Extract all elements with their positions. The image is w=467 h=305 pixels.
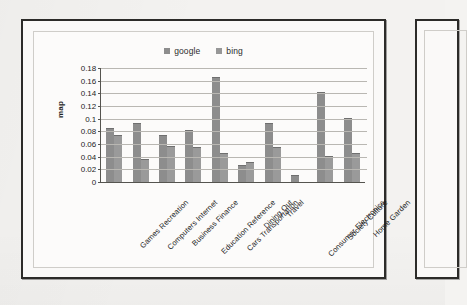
bar-bing [114,135,122,182]
bar-group [127,68,153,182]
y-axis-label: map [56,101,65,118]
y-axis-tick-label: 0.14 [81,89,96,98]
bar-group [233,68,259,182]
bar-google [238,165,246,182]
y-axis-ticks: 0.180.160.140.120.10.080.060.040.020 [66,68,96,182]
gridline [101,68,367,69]
bar-group [286,68,312,182]
y-axis-tick-mark [98,106,101,107]
gridline [101,81,367,82]
y-axis-tick-label: 0.06 [81,140,96,149]
gridline [101,144,367,145]
bar-google [212,77,220,183]
legend-item-bing: bing [216,46,242,56]
bar-bing [141,159,149,182]
gridline [101,119,367,120]
bar-group [259,68,285,182]
chart-plot-border: google bing map 0.180.160.140.120.10.080… [33,31,374,268]
y-axis-tick-label: 0 [92,178,96,187]
y-axis-tick-mark [98,93,101,94]
bar-google [291,175,299,182]
y-axis-tick-label: 0.04 [81,152,96,161]
chart-axes [100,68,365,183]
bar-bing [246,162,254,182]
gridline [101,169,367,170]
bar-series-container [101,68,365,182]
bar-google [159,135,167,182]
bar-bing [167,146,175,182]
x-axis-label: Games Recreation [138,198,190,250]
gridline [101,131,367,132]
bar-bing [273,147,281,182]
gridline [101,93,367,94]
y-axis-tick-mark [98,182,101,183]
bar-group [154,68,180,182]
gridline [101,157,367,158]
bar-google [344,118,352,182]
y-axis-tick-mark [98,144,101,145]
adjacent-figure-inner-border [424,30,467,268]
y-axis-tick-mark [98,169,101,170]
bar-group [180,68,206,182]
y-axis-tick-mark [98,119,101,120]
y-axis-tick-mark [98,157,101,158]
chart-legend: google bing [34,46,373,56]
y-axis-tick-mark [98,131,101,132]
y-axis-tick-mark [98,68,101,69]
bar-google [106,128,114,182]
legend-label-bing: bing [226,46,242,56]
y-axis-tick-mark [98,81,101,82]
gridline [101,106,367,107]
legend-label-google: google [174,46,200,56]
plot-area: map 0.180.160.140.120.10.080.060.040.020 [60,68,367,196]
legend-swatch-bing-icon [216,48,222,54]
y-axis-tick-label: 0.08 [81,127,96,136]
adjacent-figure-panel [415,19,459,279]
bar-group [312,68,338,182]
y-axis-tick-label: 0.18 [81,64,96,73]
legend-swatch-google-icon [164,48,170,54]
bar-group [207,68,233,182]
bar-group [101,68,127,182]
legend-item-google: google [164,46,200,56]
figure-panel: google bing map 0.180.160.140.120.10.080… [21,19,386,279]
y-axis-tick-label: 0.16 [81,76,96,85]
y-axis-tick-label: 0.1 [85,114,96,123]
bar-bing [193,147,201,182]
bar-group [339,68,365,182]
y-axis-tick-label: 0.12 [81,102,96,111]
y-axis-tick-label: 0.02 [81,165,96,174]
